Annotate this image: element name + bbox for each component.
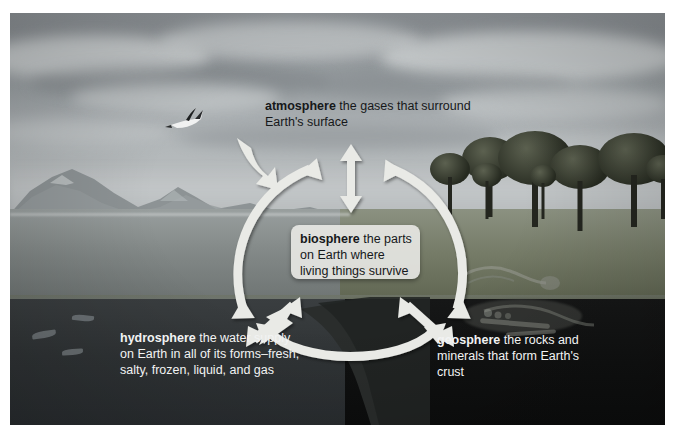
label-biosphere-box: biosphere the parts on Earth where livin… — [291, 225, 420, 279]
label-atmosphere-term: atmosphere — [265, 99, 336, 113]
label-biosphere-term: biosphere — [300, 232, 360, 246]
label-hydrosphere-term: hydrosphere — [120, 331, 196, 345]
label-geosphere-term: geosphere — [437, 333, 500, 347]
figure-canvas: atmosphere the gases that surround Earth… — [0, 0, 676, 441]
label-biosphere: biosphere the parts on Earth where livin… — [300, 231, 416, 279]
label-geosphere: geosphere the rocks and minerals that fo… — [437, 333, 607, 380]
label-atmosphere: atmosphere the gases that surround Earth… — [265, 99, 495, 131]
arrow-left-curve — [237, 138, 278, 190]
scene-photograph: atmosphere the gases that surround Earth… — [10, 13, 665, 425]
label-hydrosphere: hydrosphere the water supply on Earth in… — [120, 331, 300, 378]
arrow-top-vertical — [340, 144, 362, 213]
